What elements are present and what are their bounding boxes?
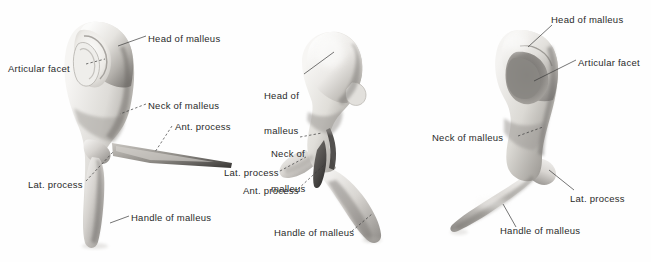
label-lateral-process-left: Lat. process	[28, 179, 83, 190]
label-neck-of-malleus-right: Neck of malleus	[432, 132, 503, 143]
label-handle-of-malleus-left: Handle of malleus	[131, 212, 211, 223]
label-anterior-process-left: Ant. process	[175, 121, 231, 132]
label-head-of-malleus-left: Head of malleus	[148, 33, 220, 44]
label-line: Neck of	[271, 148, 306, 160]
leader-handle-left	[110, 216, 129, 223]
label-handle-of-malleus-middle: Handle of malleus	[274, 227, 354, 238]
label-articular-facet-left: Articular facet	[8, 63, 70, 74]
label-neck-of-malleus-left: Neck of malleus	[148, 100, 219, 111]
label-handle-of-malleus-right: Handle of malleus	[500, 225, 580, 236]
label-lateral-process-middle: Lat. process	[224, 167, 279, 178]
label-lateral-process-right: Lat. process	[570, 193, 625, 204]
plate-artwork	[0, 0, 651, 262]
label-line: Head of	[264, 90, 299, 102]
leader-handle-right	[503, 204, 516, 227]
anatomical-plate: Head of malleus Articular facet Neck of …	[0, 0, 651, 262]
label-head-of-malleus-right: Head of malleus	[551, 14, 623, 25]
label-articular-facet-right: Articular facet	[578, 57, 640, 68]
leader-ant-left	[155, 126, 172, 152]
label-anterior-process-middle: Ant. process	[243, 185, 299, 196]
